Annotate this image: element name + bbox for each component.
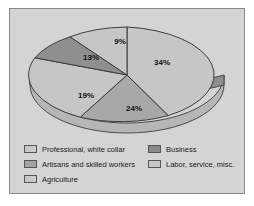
legend-label-agriculture: Agriculture bbox=[42, 175, 78, 184]
pie-label-labor-service-misc: 9% bbox=[114, 37, 126, 46]
legend-label-artisans-and-skilled-workers: Artisans and skilled workers bbox=[42, 160, 135, 169]
legend-item-artisans-and-skilled-workers[interactable]: Artisans and skilled workers bbox=[24, 158, 144, 170]
pie-label-agriculture: 19% bbox=[78, 91, 94, 100]
chart-legend: Professional, white collar Artisans and … bbox=[10, 143, 244, 193]
legend-item-professional-white-collar[interactable]: Professional, white collar bbox=[24, 143, 144, 155]
legend-swatch-labor-service-misc bbox=[148, 160, 161, 168]
legend-column-right: Business Labor, service, misc. bbox=[148, 143, 244, 173]
legend-item-labor-service-misc[interactable]: Labor, service, misc. bbox=[148, 158, 244, 170]
pie-label-artisans-and-skilled-workers: 24% bbox=[126, 104, 142, 113]
legend-label-labor-service-misc: Labor, service, misc. bbox=[166, 160, 234, 169]
pie-chart: 34% 24% 19% 13% 9% bbox=[10, 9, 244, 141]
legend-label-professional-white-collar: Professional, white collar bbox=[42, 145, 125, 154]
legend-swatch-agriculture bbox=[24, 175, 37, 183]
pie-chart-svg: 34% 24% 19% 13% 9% bbox=[10, 9, 244, 141]
legend-item-agriculture[interactable]: Agriculture bbox=[24, 173, 144, 185]
pie-label-business: 13% bbox=[83, 53, 99, 62]
legend-label-business: Business bbox=[166, 145, 196, 154]
legend-swatch-business bbox=[148, 145, 161, 153]
legend-item-business[interactable]: Business bbox=[148, 143, 244, 155]
legend-swatch-artisans-and-skilled-workers bbox=[24, 160, 37, 168]
legend-swatch-professional-white-collar bbox=[24, 145, 37, 153]
chart-panel: 34% 24% 19% 13% 9% Professional, white c… bbox=[9, 8, 245, 194]
pie-label-professional-white-collar: 34% bbox=[154, 58, 170, 67]
legend-column-left: Professional, white collar Artisans and … bbox=[24, 143, 144, 188]
